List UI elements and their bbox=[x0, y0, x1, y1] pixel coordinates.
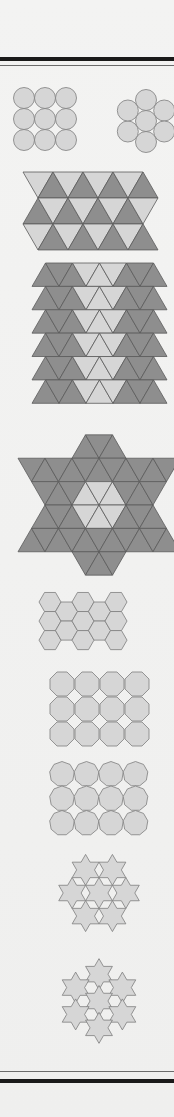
figure-page bbox=[0, 0, 174, 1117]
hexagon-tiling bbox=[39, 592, 127, 649]
nonagon-tiling bbox=[50, 762, 148, 835]
hexagram-tiling-2 bbox=[62, 959, 136, 1044]
triangle-band bbox=[23, 172, 158, 250]
square-circle-packing bbox=[14, 88, 77, 151]
hexagram-tiling-1 bbox=[59, 854, 140, 931]
triangle-field bbox=[32, 263, 167, 403]
tiling-figures bbox=[0, 0, 174, 1117]
hex-circle-packing bbox=[117, 90, 174, 153]
hexagram-triangles bbox=[18, 435, 174, 575]
octagon-tiling bbox=[50, 672, 149, 746]
